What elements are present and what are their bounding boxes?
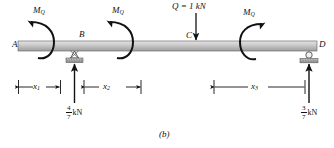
node-label-C: C: [186, 31, 192, 40]
node-label-B: B: [79, 30, 85, 39]
moment-label-2-subscript: Q: [120, 9, 124, 15]
dimension-label-x3: x3: [251, 82, 258, 91]
dimension-x2-subscript: 2: [107, 85, 110, 91]
support-B: [66, 51, 83, 63]
moment-label-1: MQ: [33, 6, 45, 15]
reaction-B-fraction: 47: [66, 105, 72, 121]
moment-label-3: MQ: [243, 8, 255, 17]
dimension-label-x1: x1: [33, 82, 40, 91]
moment-label-3-symbol: M: [243, 7, 251, 17]
reaction-label-D: 37kN: [301, 105, 317, 121]
load-label-Q: Q = 1 kN: [172, 2, 206, 11]
reaction-D-unit: kN: [307, 108, 318, 117]
moment-label-1-symbol: M: [33, 5, 41, 15]
moment-label-2-symbol: M: [112, 5, 120, 15]
dimension-label-x2: x2: [103, 82, 110, 91]
figure-canvas: A B C D MQ MQ MQ Q = 1 kN 47kN 37kN x1 x…: [0, 0, 334, 148]
node-label-A: A: [12, 40, 18, 49]
figure-caption: (b): [159, 130, 170, 139]
reaction-D-numerator: 3: [301, 105, 307, 113]
support-D: [300, 52, 318, 63]
moment-label-1-subscript: Q: [41, 9, 45, 15]
moment-label-3-subscript: Q: [251, 11, 255, 17]
moment-arc-1: [28, 21, 55, 59]
reaction-D-denominator: 7: [301, 113, 307, 121]
dimension-x3-subscript: 3: [255, 85, 258, 91]
node-label-D: D: [319, 40, 326, 49]
reaction-B-unit: kN: [72, 108, 83, 117]
dimension-x2: [84, 80, 141, 94]
diagram-svg: [0, 0, 334, 148]
reaction-B-numerator: 4: [66, 105, 72, 113]
reaction-B-denominator: 7: [66, 113, 72, 121]
reaction-D-fraction: 37: [301, 105, 307, 121]
beam-body: [18, 41, 317, 51]
dimension-x1-subscript: 1: [37, 85, 40, 91]
reaction-label-B: 47kN: [66, 105, 82, 121]
moment-arc-2: [107, 21, 134, 59]
dimension-x3: [214, 80, 305, 94]
moment-label-2: MQ: [112, 6, 124, 15]
